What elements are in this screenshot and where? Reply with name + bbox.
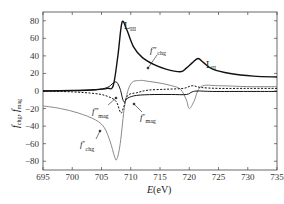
x-tick-label: 700 xyxy=(66,172,80,182)
label-fp-mag: f′mag xyxy=(140,112,156,124)
x-axis-title: E(eV) xyxy=(146,184,171,196)
pointer-fpp-mag xyxy=(108,98,116,105)
pointer-dot xyxy=(133,103,135,105)
y-tick-label: 0 xyxy=(35,86,40,96)
y-tick-label: −40 xyxy=(25,121,40,131)
label-l2: LII xyxy=(206,59,216,71)
pointer-fp-chg xyxy=(96,131,100,139)
y-tick-label: 40 xyxy=(30,51,40,61)
series-group xyxy=(43,21,277,160)
series-fp-mag xyxy=(43,82,277,102)
y-tick-label: 80 xyxy=(30,16,40,26)
x-axis-ticks: 695700705710715720725730735 xyxy=(36,12,284,182)
pointer-fp-mag xyxy=(134,104,142,112)
x-tick-label: 735 xyxy=(270,172,284,182)
y-tick-label: 20 xyxy=(30,68,40,78)
y-tick-label: 60 xyxy=(30,33,40,43)
y-tick-label: −60 xyxy=(25,139,40,149)
pointer-dot xyxy=(115,97,117,99)
y-tick-label: −20 xyxy=(25,104,40,114)
x-tick-label: 710 xyxy=(124,172,138,182)
pointer-dot xyxy=(147,67,149,69)
label-fpp-mag: f″mag xyxy=(92,106,109,119)
y-axis-title: fchg,fmag xyxy=(10,99,22,128)
x-tick-label: 715 xyxy=(153,172,167,182)
label-fpp-chg: f″chg xyxy=(150,45,166,56)
label-l3: LIII xyxy=(124,20,136,32)
chart: −80−60−40−20020406080 695700705710715720… xyxy=(0,0,284,204)
x-tick-label: 695 xyxy=(36,172,50,182)
x-tick-label: 720 xyxy=(183,172,197,182)
pointer-dot xyxy=(99,130,101,132)
label-fp-chg: f′chg xyxy=(80,139,94,152)
y-tick-label: −80 xyxy=(25,156,40,166)
series-fp-chg xyxy=(43,80,277,160)
x-tick-label: 705 xyxy=(95,172,109,182)
x-tick-label: 730 xyxy=(241,172,255,182)
x-tick-label: 725 xyxy=(212,172,226,182)
series-fpp-chg xyxy=(43,21,277,91)
